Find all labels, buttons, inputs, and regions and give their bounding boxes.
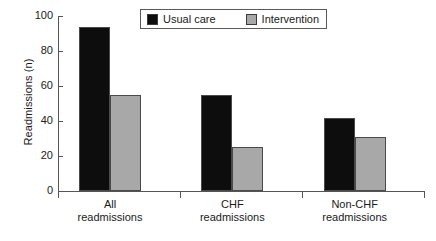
bar-chart-figure: Readmissions (n) Usual care Intervention…	[0, 0, 436, 241]
x-axis-label-line-1: All	[78, 198, 143, 211]
y-tick-label: 60	[41, 79, 53, 91]
bar-intervention-group-1	[110, 95, 141, 191]
y-tick-label: 0	[47, 184, 53, 196]
y-tick-40: 40	[58, 121, 63, 122]
x-axis-line	[58, 191, 425, 192]
x-axis-tick-1	[180, 192, 181, 198]
y-tick-label: 100	[35, 9, 53, 21]
bar-usual-care-group-2	[201, 95, 232, 191]
x-axis-label-line-2: readmissions	[78, 211, 143, 224]
y-tick-mark	[58, 86, 63, 87]
x-axis-tick-2	[302, 192, 303, 198]
x-axis-tick-start	[58, 192, 59, 198]
bar-usual-care-group-1	[79, 27, 110, 192]
y-axis-line	[58, 16, 59, 192]
x-axis-label-line-2: readmissions	[322, 211, 387, 224]
x-axis-label-group-2: CHFreadmissions	[200, 198, 265, 224]
y-tick-mark	[58, 51, 63, 52]
y-axis-label: Readmissions (n)	[22, 22, 34, 182]
x-axis-label-group-3: Non-CHFreadmissions	[322, 198, 387, 224]
bar-intervention-group-2	[232, 147, 263, 191]
y-tick-20: 20	[58, 156, 63, 157]
y-tick-100: 100	[58, 16, 63, 17]
bar-intervention-group-3	[355, 137, 386, 191]
y-tick-mark	[58, 121, 63, 122]
x-axis-label-line-1: CHF	[200, 198, 265, 211]
y-tick-60: 60	[58, 86, 63, 87]
x-axis-tick-end	[424, 192, 425, 198]
plot-area: 020406080100	[58, 16, 425, 191]
y-tick-mark	[58, 16, 63, 17]
x-axis-label-line-2: readmissions	[200, 211, 265, 224]
bar-usual-care-group-3	[324, 118, 355, 192]
y-tick-label: 80	[41, 44, 53, 56]
x-axis-label-line-1: Non-CHF	[322, 198, 387, 211]
y-tick-mark	[58, 156, 63, 157]
x-axis-label-group-1: Allreadmissions	[78, 198, 143, 224]
y-tick-label: 20	[41, 149, 53, 161]
y-tick-label: 40	[41, 114, 53, 126]
y-tick-80: 80	[58, 51, 63, 52]
